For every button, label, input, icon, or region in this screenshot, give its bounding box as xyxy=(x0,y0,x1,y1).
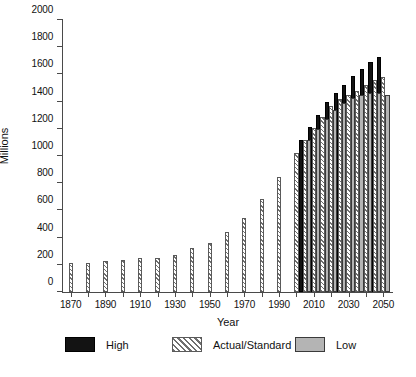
x-axis-tick xyxy=(366,292,367,297)
bar-actual-1890 xyxy=(103,261,107,292)
y-axis-tick-label: 1000 xyxy=(32,140,53,151)
population-projection-chart: 0200400600800100012001400160018002000 18… xyxy=(0,0,416,377)
bar-actual-2050 xyxy=(381,77,385,292)
legend-item-high[interactable]: High xyxy=(65,337,129,352)
x-axis-tick xyxy=(88,292,89,297)
legend-label: High xyxy=(106,339,129,351)
bar-actual-1870 xyxy=(69,263,73,292)
x-axis-tick-label: 1990 xyxy=(268,299,289,310)
x-axis-tick xyxy=(262,292,263,297)
bar-actual-2015 xyxy=(320,117,324,292)
x-axis-tick xyxy=(279,292,280,297)
x-axis-tick-label: 1970 xyxy=(234,299,255,310)
x-axis-tick xyxy=(140,292,141,297)
bar-actual-2010 xyxy=(312,128,316,292)
bar-actual-2000 xyxy=(294,153,298,292)
bar-actual-1960 xyxy=(225,232,229,292)
y-axis-tick-label: 1600 xyxy=(32,58,53,69)
x-axis-tick xyxy=(71,292,72,297)
bar-actual-1880 xyxy=(86,263,90,292)
bar-actual-2030 xyxy=(346,95,350,292)
x-axis-tick xyxy=(349,292,350,297)
x-axis-tick-label: 2030 xyxy=(338,299,359,310)
x-axis-tick-label: 2050 xyxy=(373,299,394,310)
legend-label: Low xyxy=(336,339,356,351)
bar-actual-2045 xyxy=(373,80,377,292)
x-axis-tick xyxy=(158,292,159,297)
x-axis-tick xyxy=(210,292,211,297)
x-axis-tick xyxy=(175,292,176,297)
x-axis-title: Year xyxy=(217,316,239,328)
x-axis-tick xyxy=(244,292,245,297)
x-axis-tick xyxy=(123,292,124,297)
legend-swatch-high xyxy=(65,337,95,352)
legend-label: Actual/Standard xyxy=(213,339,291,351)
y-axis-title: Millions xyxy=(0,128,10,165)
y-axis-tick-label: 1400 xyxy=(32,85,53,96)
y-axis-tick-label: 600 xyxy=(37,194,53,205)
x-axis-tick xyxy=(192,292,193,297)
x-axis-tick xyxy=(331,292,332,297)
bar-actual-1980 xyxy=(260,199,264,292)
bar-actual-1910 xyxy=(138,258,142,292)
x-axis-tick-label: 1910 xyxy=(129,299,150,310)
x-axis-tick xyxy=(314,292,315,297)
x-axis-tick-label: 1890 xyxy=(95,299,116,310)
x-axis-tick xyxy=(227,292,228,297)
y-axis-tick-label: 1200 xyxy=(32,112,53,123)
legend-swatch-low xyxy=(295,337,325,352)
y-axis-tick-label: 200 xyxy=(37,248,53,259)
bar-low-2050 xyxy=(385,95,389,292)
legend-swatch-actual xyxy=(172,337,202,352)
x-axis-tick-label: 1870 xyxy=(60,299,81,310)
bar-actual-2040 xyxy=(364,85,368,292)
x-axis-tick xyxy=(296,292,297,297)
x-axis-tick xyxy=(383,292,384,297)
bar-actual-1930 xyxy=(173,255,177,292)
bar-actual-1950 xyxy=(208,243,212,292)
bar-actual-2005 xyxy=(303,140,307,292)
y-axis-tick-label: 400 xyxy=(37,221,53,232)
y-axis-tick-label: 1800 xyxy=(32,31,53,42)
y-axis-tick-label: 0 xyxy=(48,276,53,287)
x-axis-tick-label: 2010 xyxy=(303,299,324,310)
bar-actual-2025 xyxy=(338,99,342,292)
bar-actual-1970 xyxy=(242,218,246,292)
x-axis-tick-label: 1930 xyxy=(164,299,185,310)
x-axis-tick-label: 1950 xyxy=(199,299,220,310)
bar-actual-2020 xyxy=(329,106,333,292)
plot-area xyxy=(62,20,392,292)
x-axis-tick xyxy=(105,292,106,297)
y-axis-tick-label: 800 xyxy=(37,167,53,178)
bar-actual-1990 xyxy=(277,177,281,292)
legend-item-low[interactable]: Low xyxy=(295,337,356,352)
legend-item-actual[interactable]: Actual/Standard xyxy=(172,337,291,352)
chart-legend: HighActual/StandardLow xyxy=(0,337,416,357)
y-axis-tick-label: 2000 xyxy=(32,4,53,15)
bar-actual-2035 xyxy=(355,91,359,292)
bar-actual-1940 xyxy=(190,248,194,292)
bar-actual-1900 xyxy=(121,260,125,292)
bar-actual-1920 xyxy=(155,258,159,292)
x-axis-line: 1870189019101930195019701990201020302050 xyxy=(62,292,393,293)
